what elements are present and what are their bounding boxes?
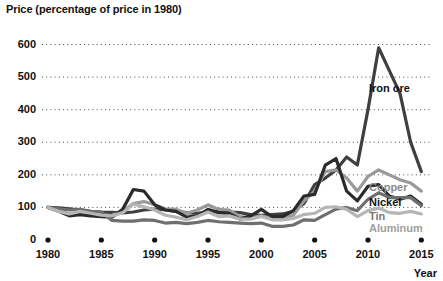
x-axis-tick-label: 2010 bbox=[344, 248, 392, 260]
y-axis-tick-label: 100 bbox=[2, 200, 36, 212]
y-axis-tick-label: 0 bbox=[2, 233, 36, 245]
x-axis-tick-dot bbox=[365, 237, 370, 242]
x-axis-tick-label: 1980 bbox=[24, 248, 72, 260]
x-axis-tick-dot bbox=[419, 237, 424, 242]
series-label-tin: Tin bbox=[369, 210, 385, 222]
x-axis-tick-label: 2000 bbox=[237, 248, 285, 260]
x-axis-tick-dot bbox=[152, 237, 157, 242]
y-axis-tick-label: 600 bbox=[2, 38, 36, 50]
y-axis-tick-label: 300 bbox=[2, 135, 36, 147]
x-axis-tick-label: 2005 bbox=[291, 248, 339, 260]
x-axis-title: Year bbox=[414, 267, 437, 279]
series-line-nickel bbox=[48, 159, 421, 220]
x-axis-tick-label: 1985 bbox=[77, 248, 125, 260]
x-axis-tick-label: 2015 bbox=[397, 248, 443, 260]
y-axis-tick-label: 400 bbox=[2, 103, 36, 115]
series-line-tin bbox=[48, 193, 421, 227]
x-axis-tick-dot bbox=[312, 237, 317, 242]
x-axis-tick-dot bbox=[259, 237, 264, 242]
x-axis-tick-label: 1990 bbox=[131, 248, 179, 260]
chart-canvas bbox=[0, 0, 443, 281]
x-axis-tick-dot bbox=[99, 237, 104, 242]
series-label-aluminum: Aluminum bbox=[369, 222, 423, 234]
y-axis-tick-label: 500 bbox=[2, 70, 36, 82]
y-axis-tick-label: 200 bbox=[2, 168, 36, 180]
x-axis-tick-dot bbox=[205, 237, 210, 242]
plot-area bbox=[0, 0, 443, 281]
series-label-iron-ore: Iron ore bbox=[369, 82, 410, 94]
series-label-nickel: Nickel bbox=[369, 196, 401, 208]
chart-figure: Price (percentage of price in 1980) Year… bbox=[0, 0, 443, 281]
series-label-copper: Copper bbox=[369, 181, 408, 193]
x-axis-tick-dot bbox=[45, 237, 50, 242]
x-axis-tick-label: 1995 bbox=[184, 248, 232, 260]
